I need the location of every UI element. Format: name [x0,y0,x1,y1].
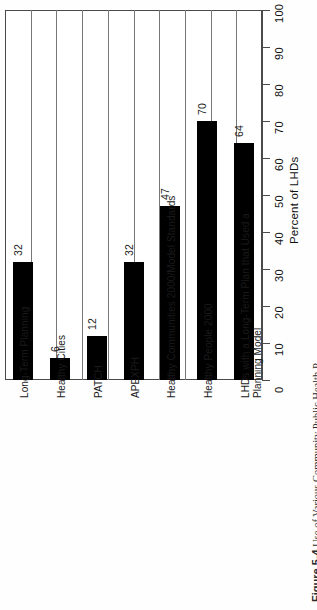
axis-tick [263,306,270,307]
bar-value-label: 70 [196,103,208,115]
axis-tick [263,269,270,270]
axis-tick [263,380,270,381]
category-label: Long-Term Planning [19,307,31,398]
axis-tick-label: 0 [273,387,285,393]
category-label: PATCH [93,365,105,398]
figure-caption-text: Use of Various Community Public Health P [311,363,317,547]
axis-tick-label: 90 [273,47,285,60]
axis-tick [263,195,270,196]
axis-tick-label: 40 [273,232,285,245]
axis-tick [263,158,270,159]
bar-value-label: 64 [233,125,245,137]
axis-tick [263,47,270,48]
figure-caption-label: Figure 5-4 [310,549,317,602]
axis-tick [263,84,270,85]
axis-tick [263,343,270,344]
bar-value-label: 12 [86,318,98,330]
category-label: Healthy People 2000 [203,303,215,398]
category-label: Healthy Cities [56,335,68,398]
axis-tick-label: 30 [273,269,285,282]
axis-tick-label: 80 [273,84,285,97]
axis-tick-label: 60 [273,158,285,171]
axis-title: Percent of LHDs [288,157,300,244]
axis-tick [263,232,270,233]
category-label: Healthy Communities 2000/Model Standards [166,196,178,398]
category-label: LHDs with a Long-Term Plan that Used a [240,213,252,398]
gridline [185,10,186,380]
bar-value-label: 32 [123,244,135,256]
axis-tick-label: 10 [273,343,285,356]
axis-tick-label: 70 [273,121,285,134]
axis-tick-label: 100 [273,4,285,23]
scanned-figure-page: 3261232477064 0102030405060708090100 Lon… [0,0,317,610]
axis-tick-label: 20 [273,306,285,319]
gridline [108,10,109,380]
figure-caption: Figure 5-4 Use of Various Community Publ… [310,363,317,602]
axis-tick [263,121,270,122]
axis-tick [263,10,270,11]
category-label: Planning Model [252,328,264,398]
axis-tick-label: 50 [273,195,285,208]
bar-value-label: 32 [12,244,24,256]
gridline [56,10,57,380]
gridline [82,10,83,380]
category-label: APEXPH [130,357,142,398]
